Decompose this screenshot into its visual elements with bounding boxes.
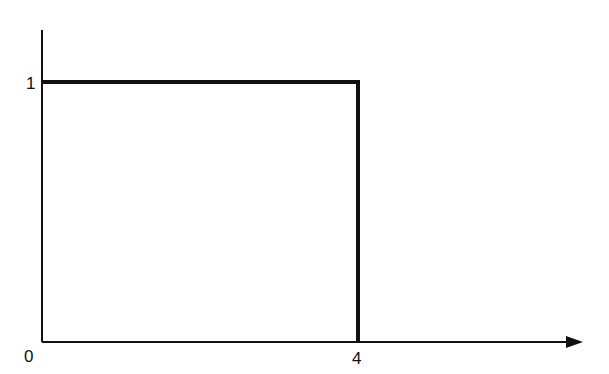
pulse-chart: 1 0 4 <box>0 0 609 374</box>
origin-label: 0 <box>24 347 33 366</box>
x-axis-arrow-icon <box>566 336 583 348</box>
y-tick-label-1: 1 <box>26 74 35 93</box>
x-tick-label-4: 4 <box>352 349 361 368</box>
pulse-line <box>42 82 358 342</box>
